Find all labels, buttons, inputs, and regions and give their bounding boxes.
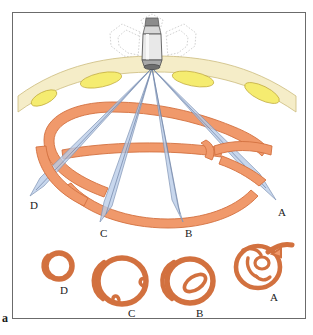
- scan-plane-label-C: C: [100, 228, 107, 239]
- cross-section-A: [236, 244, 292, 288]
- scan-plane-label-A: A: [278, 207, 286, 218]
- cross-section-label-A: A: [270, 292, 278, 303]
- cross-section-C: [94, 258, 146, 304]
- scan-plane-label-D: D: [30, 200, 38, 211]
- scan-plane-label-B: B: [185, 228, 192, 239]
- cross-section-label-C: C: [128, 308, 135, 319]
- figure-panel-a: D C B A D C B A a: [0, 0, 313, 335]
- cross-section-D: [44, 253, 72, 279]
- ultrasound-transducer: [142, 18, 162, 70]
- cross-section-label-D: D: [60, 285, 68, 296]
- figure-panel-label: a: [2, 312, 8, 324]
- cross-section-label-B: B: [196, 308, 203, 319]
- illustration-canvas: [0, 0, 313, 335]
- cross-section-B: [162, 259, 213, 303]
